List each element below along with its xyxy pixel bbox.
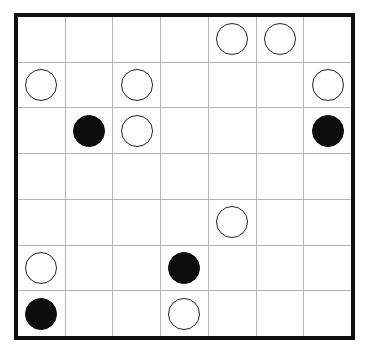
board-cell-r5-c5[interactable] [209,200,256,245]
board-cell-r2-c5[interactable] [209,63,256,108]
board-cell-r7-c3[interactable] [113,291,160,336]
board-cell-r4-c1[interactable] [18,154,65,199]
board-cell-r7-c6[interactable] [257,291,304,336]
black-circle-icon [25,298,57,330]
board-cell-r4-c3[interactable] [113,154,160,199]
board-cell-r6-c2[interactable] [66,246,113,291]
board-cell-r2-c2[interactable] [66,63,113,108]
white-circle-icon [216,206,248,238]
board-cell-r6-c7[interactable] [304,246,351,291]
board-cell-r3-c7[interactable] [304,108,351,153]
board-frame [14,13,355,340]
white-circle-icon [121,69,153,101]
board-cell-r1-c3[interactable] [113,17,160,62]
board-cell-r1-c2[interactable] [66,17,113,62]
board-cell-r5-c2[interactable] [66,200,113,245]
board-cell-r2-c3[interactable] [113,63,160,108]
white-circle-icon [25,252,57,284]
board-cell-r4-c2[interactable] [66,154,113,199]
board-cell-r4-c6[interactable] [257,154,304,199]
black-circle-icon [168,252,200,284]
board-grid[interactable] [18,17,351,336]
board-cell-r2-c4[interactable] [161,63,208,108]
board-cell-r4-c7[interactable] [304,154,351,199]
board-cell-r6-c5[interactable] [209,246,256,291]
board-cell-r6-c1[interactable] [18,246,65,291]
board-cell-r2-c7[interactable] [304,63,351,108]
board-cell-r5-c4[interactable] [161,200,208,245]
board-cell-r2-c1[interactable] [18,63,65,108]
board-cell-r3-c2[interactable] [66,108,113,153]
board-cell-r6-c4[interactable] [161,246,208,291]
white-circle-icon [216,23,248,55]
board-cell-r1-c4[interactable] [161,17,208,62]
white-circle-icon [312,69,344,101]
board-cell-r4-c4[interactable] [161,154,208,199]
white-circle-icon [264,23,296,55]
board-cell-r5-c3[interactable] [113,200,160,245]
board-cell-r1-c6[interactable] [257,17,304,62]
board-cell-r3-c4[interactable] [161,108,208,153]
board-cell-r5-c6[interactable] [257,200,304,245]
white-circle-icon [25,69,57,101]
board-cell-r7-c2[interactable] [66,291,113,336]
board-cell-r7-c1[interactable] [18,291,65,336]
board-cell-r1-c1[interactable] [18,17,65,62]
board-cell-r3-c1[interactable] [18,108,65,153]
white-circle-icon [168,298,200,330]
board-cell-r1-c7[interactable] [304,17,351,62]
board-cell-r2-c6[interactable] [257,63,304,108]
board-cell-r3-c6[interactable] [257,108,304,153]
board-cell-r6-c3[interactable] [113,246,160,291]
black-circle-icon [73,115,105,147]
board-cell-r6-c6[interactable] [257,246,304,291]
white-circle-icon [121,115,153,147]
board-cell-r7-c4[interactable] [161,291,208,336]
board-cell-r5-c1[interactable] [18,200,65,245]
board-cell-r3-c3[interactable] [113,108,160,153]
board-cell-r3-c5[interactable] [209,108,256,153]
board-cell-r5-c7[interactable] [304,200,351,245]
board-cell-r4-c5[interactable] [209,154,256,199]
board-cell-r7-c5[interactable] [209,291,256,336]
board-cell-r7-c7[interactable] [304,291,351,336]
board-cell-r1-c5[interactable] [209,17,256,62]
puzzle-root [0,0,370,353]
black-circle-icon [312,115,344,147]
